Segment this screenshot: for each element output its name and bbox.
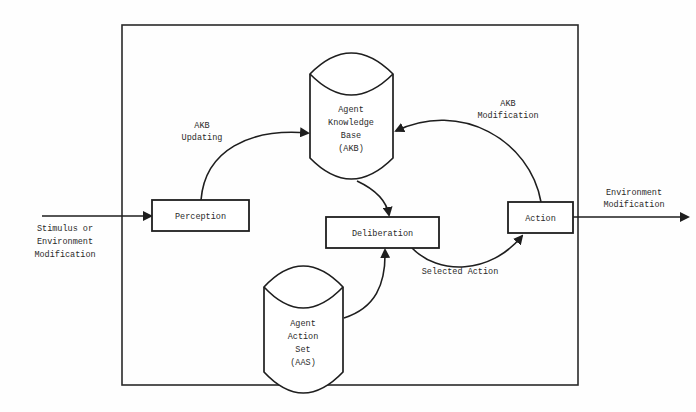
aas-to-deliberation-arrow (344, 250, 385, 318)
node-aas-cylinder: Agent Action Set (AAS) (264, 266, 343, 393)
edge-akb-modification: AKB Modification (396, 99, 541, 202)
akb-label-line-2: Knowledge (328, 118, 374, 128)
aas-label-line-3: Set (295, 345, 310, 355)
deliberation-label: Deliberation (352, 229, 413, 239)
akb-modification-label-line-1: AKB (500, 99, 515, 109)
input-label-line-3: Modification (34, 250, 95, 260)
akb-updating-label-line-1: AKB (194, 121, 209, 131)
akb-label-line-1: Agent (338, 105, 364, 115)
akb-updating-label-line-2: Updating (182, 133, 223, 143)
akb-label-line-4: (AKB) (338, 144, 364, 154)
aas-label-line-1: Agent (290, 319, 316, 329)
node-action: Action (508, 202, 573, 233)
edge-output: Environment Modification (573, 188, 688, 217)
output-label-line-2: Modification (603, 200, 664, 210)
node-akb-cylinder: Agent Knowledge Base (AKB) (310, 53, 393, 179)
action-label: Action (525, 214, 556, 224)
perception-label: Perception (175, 212, 226, 222)
akb-label-line-3: Base (341, 131, 361, 141)
edge-input: Stimulus or Environment Modification (34, 216, 151, 260)
diagram-canvas: Stimulus or Environment Modification Env… (0, 0, 696, 412)
selected-action-label: Selected Action (422, 267, 499, 277)
node-perception: Perception (152, 200, 249, 231)
akb-modification-label-line-2: Modification (477, 111, 538, 121)
node-deliberation: Deliberation (326, 217, 439, 248)
akb-modification-arrow (396, 120, 541, 202)
aas-label-line-4: (AAS) (290, 358, 316, 368)
output-label-line-1: Environment (606, 188, 662, 198)
edge-akb-updating: AKB Updating (182, 121, 308, 200)
aas-label-line-2: Action (288, 332, 319, 342)
input-label-line-1: Stimulus or (37, 224, 93, 234)
akb-to-deliberation-arrow (357, 181, 389, 215)
input-label-line-2: Environment (37, 237, 93, 247)
